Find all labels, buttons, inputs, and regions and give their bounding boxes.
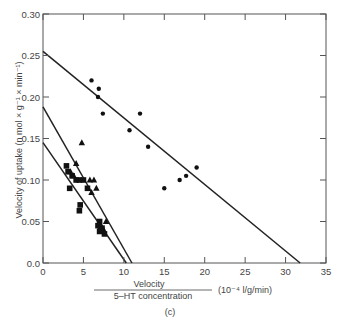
y-tick-label: 0.10 <box>22 175 41 186</box>
square-marker <box>81 177 87 183</box>
x-axis-label-units: (10⁻⁴ l/g/min) <box>218 285 272 295</box>
squares-fit-line <box>43 143 126 263</box>
circle-marker <box>127 128 131 132</box>
circle-marker <box>162 186 166 190</box>
plot-border <box>43 14 326 263</box>
square-marker <box>64 163 70 169</box>
circle-marker <box>96 95 100 99</box>
data-points <box>64 78 199 237</box>
circle-marker <box>146 145 150 149</box>
circle-marker <box>194 165 198 169</box>
triangle-marker <box>93 185 99 191</box>
y-tick-label: 0.0 <box>27 258 40 269</box>
circle-marker <box>138 111 142 115</box>
scatchard-plot: 05101520253035 0.00.050.100.150.200.250.… <box>0 0 337 322</box>
y-tick-label: 0.05 <box>22 216 41 227</box>
x-tick-label: 20 <box>199 266 210 277</box>
circle-marker <box>177 178 181 182</box>
x-axis-ticks: 05101520253035 <box>40 14 331 277</box>
x-tick-label: 35 <box>321 266 332 277</box>
y-tick-label: 0.30 <box>22 9 41 20</box>
triangles-fit-line <box>43 107 132 263</box>
x-tick-label: 5 <box>81 266 86 277</box>
x-axis-label-numerator: Velocity <box>133 279 165 289</box>
circles-fit-line <box>43 51 300 263</box>
triangle-marker <box>79 139 85 145</box>
x-tick-label: 10 <box>119 266 130 277</box>
x-axis-label-denominator: 5–HT concentration <box>114 291 192 301</box>
plot-frame <box>43 14 326 263</box>
x-tick-label: 15 <box>159 266 170 277</box>
circle-marker <box>184 174 188 178</box>
circle-marker <box>101 111 105 115</box>
fit-lines <box>43 51 300 263</box>
y-tick-label: 0.25 <box>22 50 41 61</box>
panel-label: (c) <box>165 307 176 317</box>
y-tick-label: 0.20 <box>22 92 41 103</box>
circle-marker <box>89 78 93 82</box>
x-tick-label: 0 <box>40 266 45 277</box>
square-marker <box>77 202 83 208</box>
square-marker <box>67 186 73 192</box>
y-tick-label: 0.15 <box>22 133 41 144</box>
circle-marker <box>97 87 101 91</box>
x-tick-label: 25 <box>240 266 251 277</box>
square-marker <box>77 208 83 214</box>
y-axis-ticks: 0.00.050.100.150.200.250.30 <box>22 9 327 269</box>
x-tick-label: 30 <box>280 266 291 277</box>
square-marker <box>98 227 104 233</box>
triangle-marker <box>91 177 97 183</box>
y-axis-label: Velocity of uptake (n mol × g⁻¹ × min⁻¹) <box>14 61 24 218</box>
square-marker <box>85 186 91 192</box>
